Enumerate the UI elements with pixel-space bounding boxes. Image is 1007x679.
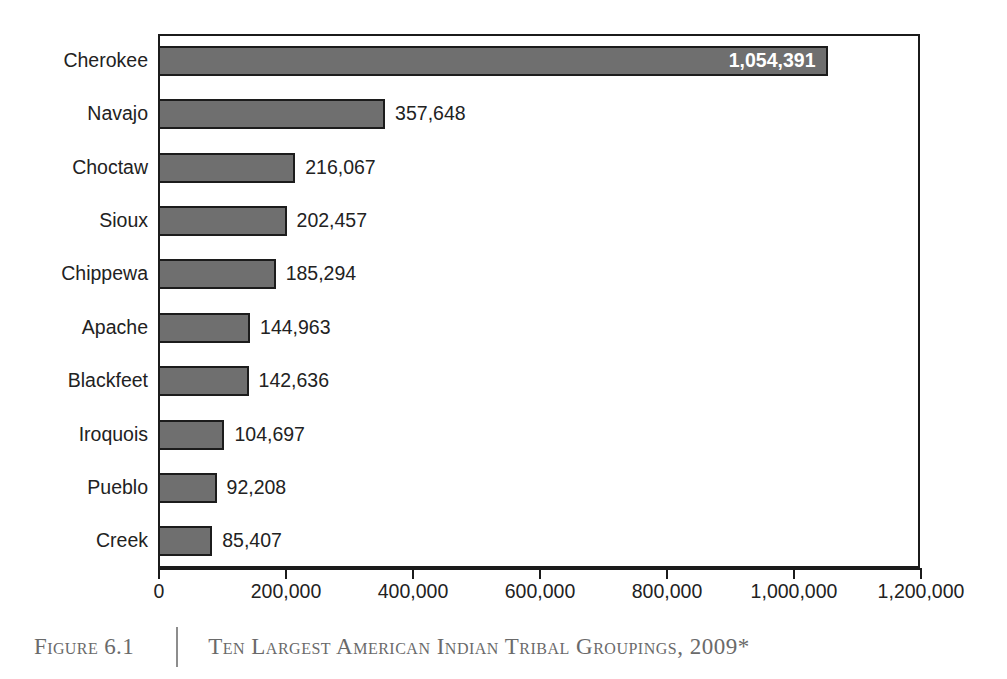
x-axis-tick-label: 600,000: [505, 582, 576, 602]
bar: [158, 313, 250, 343]
x-axis-tick: [158, 568, 160, 579]
category-label: Sioux: [0, 211, 148, 231]
bar-value-label: 142,636: [259, 371, 330, 391]
x-axis-tick-label: 400,000: [378, 582, 449, 602]
bar: [158, 259, 276, 289]
bar-value-label: 357,648: [395, 104, 466, 124]
category-label: Navajo: [0, 104, 148, 124]
x-axis-tick-label: 1,000,000: [751, 582, 838, 602]
x-axis-tick: [412, 568, 414, 579]
x-axis-tick: [285, 568, 287, 579]
x-axis-tick-label: 200,000: [251, 582, 322, 602]
category-label: Choctaw: [0, 158, 148, 178]
category-label: Pueblo: [0, 478, 148, 498]
bar: [158, 526, 212, 556]
bar-value-label: 202,457: [297, 211, 368, 231]
bar-value-label: 85,407: [222, 531, 282, 551]
bar: [158, 473, 217, 503]
bar-value-label: 1,054,391: [729, 51, 816, 71]
bar: [158, 46, 828, 76]
x-axis-tick-label: 0: [154, 582, 165, 602]
x-axis-tick-label: 1,200,000: [878, 582, 965, 602]
figure-container: CherokeeNavajoChoctawSiouxChippewaApache…: [0, 0, 1007, 679]
bar-value-label: 144,963: [260, 318, 331, 338]
bar-value-label: 185,294: [286, 264, 357, 284]
category-axis-labels: CherokeeNavajoChoctawSiouxChippewaApache…: [0, 34, 148, 568]
category-label: Chippewa: [0, 264, 148, 284]
category-label: Apache: [0, 318, 148, 338]
bar-value-label: 104,697: [234, 425, 305, 445]
x-axis-tick-label: 800,000: [632, 582, 703, 602]
bar-value-label: 216,067: [305, 158, 376, 178]
caption-figure-number: Figure 6.1: [34, 634, 134, 660]
x-axis-tick: [666, 568, 668, 579]
category-label: Creek: [0, 531, 148, 551]
bar: [158, 420, 224, 450]
category-label: Cherokee: [0, 51, 148, 71]
x-axis-tick: [539, 568, 541, 579]
bar: [158, 366, 249, 396]
x-axis-tick: [793, 568, 795, 579]
category-label: Blackfeet: [0, 371, 148, 391]
figure-caption: Figure 6.1 Ten Largest American Indian T…: [34, 628, 750, 666]
bars-layer: 1,054,391357,648216,067202,457185,294144…: [158, 34, 920, 568]
caption-title: Ten Largest American Indian Tribal Group…: [208, 634, 750, 660]
category-label: Iroquois: [0, 425, 148, 445]
bar: [158, 99, 385, 129]
bar-value-label: 92,208: [227, 478, 287, 498]
caption-divider: [176, 627, 178, 667]
bar: [158, 206, 287, 236]
bar: [158, 153, 295, 183]
x-axis-tick: [920, 568, 922, 579]
